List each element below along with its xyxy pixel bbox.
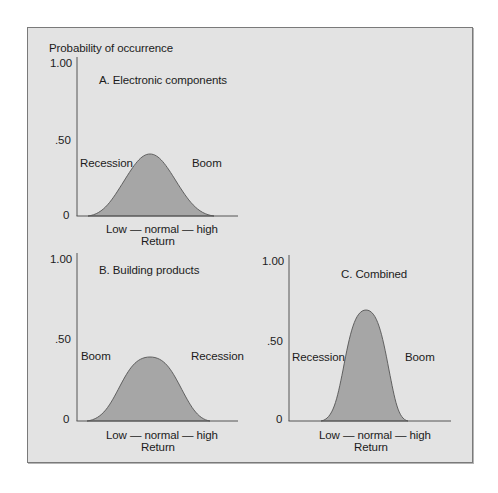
y-axis-title: Probability of occurrence — [49, 42, 173, 54]
panel-c-x-axis-label: Return — [354, 441, 388, 453]
panel-c-y-tick-050: .50 — [267, 335, 283, 347]
panel-a-right-label: Boom — [192, 157, 222, 169]
chart-plots — [0, 0, 498, 493]
panel-b-title: B. Building products — [99, 264, 199, 276]
panel-a-y-tick-0: 0 — [63, 209, 69, 221]
panel-b-left-label: Boom — [81, 350, 111, 362]
panel-a-x-axis-label: Return — [141, 235, 175, 247]
panel-b-x-tick-labels: Low — normal — high — [106, 429, 218, 441]
panel-b-plot — [77, 253, 239, 421]
panel-a-x-tick-labels: Low — normal — high — [106, 223, 218, 235]
panel-b-distribution-area — [87, 357, 210, 421]
panel-a-y-tick-1: 1.00 — [50, 57, 72, 69]
panel-b-y-tick-0: 0 — [63, 413, 69, 425]
panel-b-x-axis-label: Return — [141, 441, 175, 453]
panel-c-y-tick-0: 0 — [276, 413, 282, 425]
panel-c-title: C. Combined — [341, 268, 407, 280]
panel-c-y-tick-1: 1.00 — [262, 255, 284, 267]
panel-b-right-label: Recession — [191, 350, 244, 362]
panel-b-y-tick-1: 1.00 — [50, 253, 72, 265]
panel-a-left-label: Recession — [80, 157, 133, 169]
panel-c-right-label: Boom — [405, 351, 435, 363]
panel-b-y-tick-050: .50 — [55, 333, 71, 345]
panel-a-title: A. Electronic components — [99, 74, 227, 86]
panel-c-x-tick-labels: Low — normal — high — [319, 429, 431, 441]
panel-c-distribution-area — [321, 310, 408, 421]
panel-a-y-tick-050: .50 — [55, 134, 71, 146]
probability-distribution-figure: Probability of occurrence 1.00 .50 0 A. … — [0, 0, 498, 493]
panel-c-left-label: Recession — [292, 351, 345, 363]
